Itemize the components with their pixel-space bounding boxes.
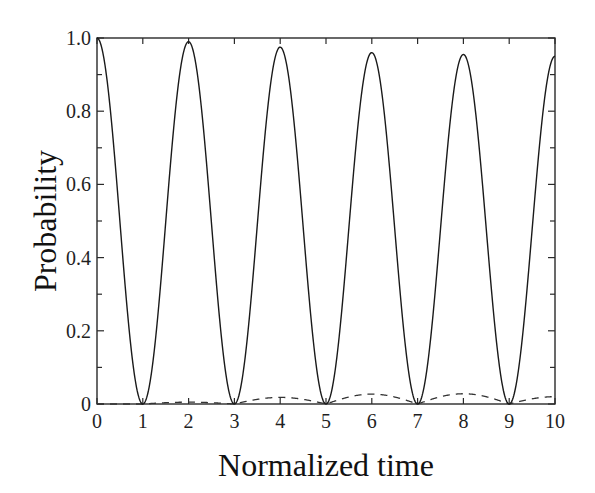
y-tick-label: 0: [81, 393, 91, 415]
y-axis-tick-labels: 00.20.40.60.81.0: [66, 27, 91, 415]
x-tick-label: 5: [321, 410, 331, 432]
y-tick-label: 0.4: [66, 247, 91, 269]
x-axis-title: Normalized time: [218, 447, 434, 483]
x-tick-label: 2: [184, 410, 194, 432]
solid-series-line: [97, 38, 555, 404]
y-tick-label: 0.6: [66, 173, 91, 195]
y-tick-label: 0.2: [66, 320, 91, 342]
x-tick-label: 3: [229, 410, 239, 432]
x-tick-label: 0: [92, 410, 102, 432]
x-tick-label: 9: [504, 410, 514, 432]
probability-chart: 012345678910 00.20.40.60.81.0 Normalized…: [0, 0, 595, 493]
x-tick-label: 4: [275, 410, 285, 432]
y-tick-label: 0.8: [66, 100, 91, 122]
x-tick-label: 10: [545, 410, 565, 432]
x-tick-label: 8: [458, 410, 468, 432]
x-tick-label: 6: [367, 410, 377, 432]
x-tick-label: 1: [138, 410, 148, 432]
x-tick-label: 7: [413, 410, 423, 432]
y-tick-label: 1.0: [66, 27, 91, 49]
x-axis-tick-labels: 012345678910: [92, 410, 565, 432]
y-axis-title: Probability: [27, 150, 63, 292]
